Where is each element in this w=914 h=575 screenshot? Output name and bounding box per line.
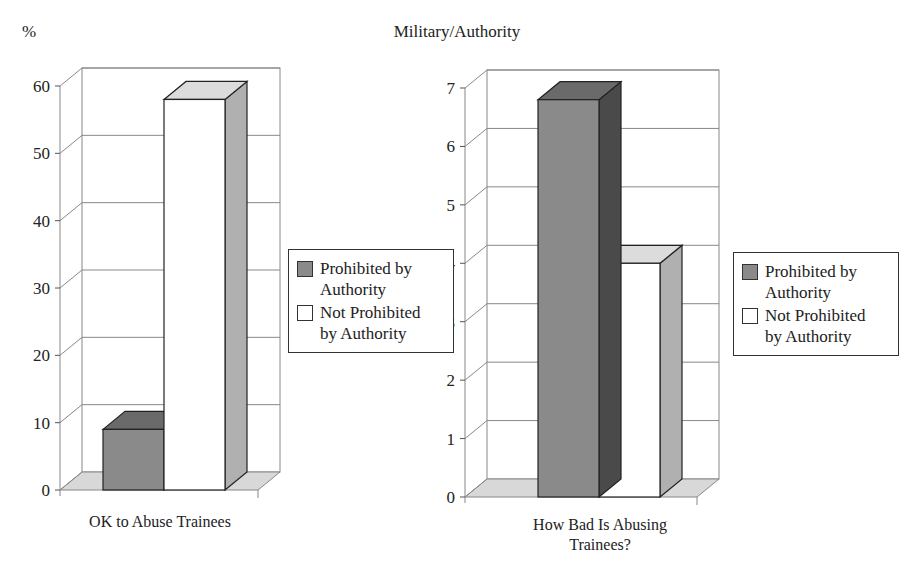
legend-swatch-not-prohibited xyxy=(742,308,758,324)
bar-prohibited xyxy=(538,82,621,497)
y-tick-label: 5 xyxy=(447,196,456,215)
y-tick-label: 0 xyxy=(42,481,51,500)
chart2-x-label-line2: Trainees? xyxy=(480,535,720,555)
y-tick-label: 30 xyxy=(33,279,50,298)
legend-swatch-prohibited xyxy=(297,261,313,277)
chart1-x-label-line1: OK to Abuse Trainees xyxy=(40,512,280,532)
y-tick-label: 10 xyxy=(33,414,50,433)
y-tick-label: 60 xyxy=(33,77,50,96)
chart2-x-label: How Bad Is Abusing Trainees? xyxy=(480,515,720,555)
legend-item-prohibited: Prohibited byAuthority xyxy=(742,261,890,303)
chart-2: 01234567 xyxy=(447,70,720,507)
chart2-x-label-line1: How Bad Is Abusing xyxy=(480,515,720,535)
legend-label-not-prohibited: Not Prohibitedby Authority xyxy=(765,305,866,347)
legend-swatch-not-prohibited xyxy=(297,305,313,321)
y-tick-label: 50 xyxy=(33,144,50,163)
y-tick-label: 0 xyxy=(447,488,456,507)
bar-not-prohibited xyxy=(164,81,247,490)
legend-label-prohibited: Prohibited byAuthority xyxy=(320,258,412,300)
y-tick-label: 7 xyxy=(447,79,456,98)
legend-label-not-prohibited: Not Prohibitedby Authority xyxy=(320,302,421,344)
legend-swatch-prohibited xyxy=(742,264,758,280)
chart2-legend: Prohibited byAuthority Not Prohibitedby … xyxy=(733,252,899,356)
legend-label-prohibited: Prohibited byAuthority xyxy=(765,261,857,303)
y-tick-label: 6 xyxy=(447,137,456,156)
legend-item-not-prohibited: Not Prohibitedby Authority xyxy=(297,302,445,344)
chart1-legend: Prohibited byAuthority Not Prohibitedby … xyxy=(288,249,454,353)
y-tick-label: 40 xyxy=(33,212,50,231)
y-tick-label: 1 xyxy=(447,430,456,449)
chart1-x-label: OK to Abuse Trainees xyxy=(40,512,280,532)
y-tick-label: 20 xyxy=(33,346,50,365)
chart-1: 0102030405060 xyxy=(33,68,280,500)
legend-item-not-prohibited: Not Prohibitedby Authority xyxy=(742,305,890,347)
y-tick-label: 2 xyxy=(447,371,456,390)
legend-item-prohibited: Prohibited byAuthority xyxy=(297,258,445,300)
